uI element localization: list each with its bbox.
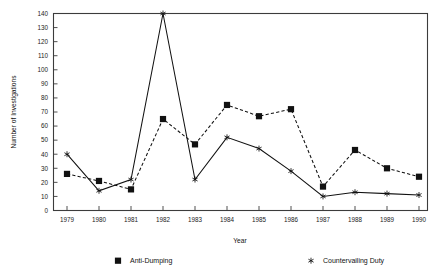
plot-frame <box>54 14 428 211</box>
y-axis-title: Number of Investigations <box>10 75 18 149</box>
chart-container: 0102030405060708090100110120130140 19791… <box>0 0 444 275</box>
data-point-marker <box>416 174 422 180</box>
x-tick-label: 1980 <box>92 216 107 223</box>
data-point-marker <box>256 146 261 152</box>
series-line-1 <box>67 105 419 189</box>
x-tick-label: 1982 <box>156 216 171 223</box>
data-point-marker <box>384 165 390 171</box>
legend-marker-anti-dumping <box>115 258 121 264</box>
x-tick-label: 1979 <box>60 216 75 223</box>
legend-label-anti-dumping: Anti-Dumping <box>130 257 173 265</box>
legend-label-countervailing-duty: Countervailing Duty <box>323 257 385 265</box>
y-tick-label: 140 <box>37 10 48 17</box>
y-tick-label: 20 <box>41 179 49 186</box>
data-point-marker <box>128 177 133 183</box>
y-tick-label: 120 <box>37 38 48 45</box>
data-point-marker <box>160 116 166 122</box>
series-line-2 <box>67 14 419 197</box>
x-tick-label: 1983 <box>188 216 203 223</box>
y-tick-label: 10 <box>41 193 49 200</box>
y-tick-label: 80 <box>41 94 49 101</box>
line-chart-figure: 0102030405060708090100110120130140 19791… <box>0 0 444 275</box>
data-series-group <box>64 11 422 200</box>
y-tick-label: 130 <box>37 24 48 31</box>
y-tick-label: 110 <box>38 52 49 59</box>
y-axis: 0102030405060708090100110120130140 <box>37 10 57 214</box>
x-tick-label: 1985 <box>252 216 267 223</box>
y-tick-label: 40 <box>41 151 49 158</box>
x-tick-label: 1990 <box>412 216 427 223</box>
x-axis-title: Year <box>233 237 247 244</box>
data-point-marker <box>288 106 294 112</box>
y-tick-label: 70 <box>41 108 49 115</box>
x-tick-label: 1984 <box>220 216 235 223</box>
y-tick-label: 0 <box>44 207 48 214</box>
data-point-marker <box>64 171 70 177</box>
x-tick-label: 1987 <box>316 216 331 223</box>
data-point-marker <box>128 186 134 192</box>
x-tick-label: 1989 <box>380 216 395 223</box>
y-tick-label: 90 <box>41 80 49 87</box>
data-point-marker <box>192 141 198 147</box>
y-tick-label: 50 <box>41 136 49 143</box>
x-axis: 1979198019811982198319841985198619871988… <box>60 206 427 223</box>
legend-marker-countervailing-duty <box>308 258 313 264</box>
y-tick-label: 30 <box>41 165 49 172</box>
data-point-marker <box>96 178 102 184</box>
data-point-marker <box>352 147 358 153</box>
data-point-marker <box>320 183 326 189</box>
x-tick-label: 1988 <box>348 216 363 223</box>
data-point-marker <box>256 113 262 119</box>
chart-legend: Anti-DumpingCountervailing Duty <box>115 257 385 265</box>
y-tick-label: 100 <box>37 66 48 73</box>
x-tick-label: 1981 <box>124 216 139 223</box>
data-point-marker <box>224 102 230 108</box>
x-tick-label: 1986 <box>284 216 299 223</box>
y-tick-label: 60 <box>41 122 49 129</box>
